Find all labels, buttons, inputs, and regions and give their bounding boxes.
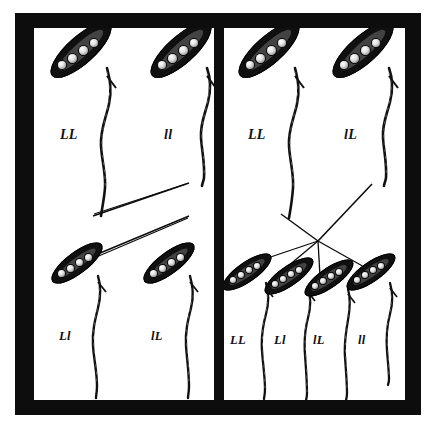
genotype-label-offspring-3: lL: [313, 334, 325, 347]
genotype-label-offspring-1: Ll: [59, 330, 71, 343]
plant-stem: [176, 274, 202, 398]
genotype-label-parent-1: LL: [60, 128, 78, 142]
pea-seed: [68, 54, 77, 63]
pea-seed: [328, 273, 334, 279]
pea-seed: [168, 54, 177, 63]
pea-seed: [272, 281, 278, 287]
pea-seed: [159, 265, 166, 272]
panel-heterozygous-cross: LL lL: [224, 28, 405, 400]
pea-seed: [296, 267, 302, 273]
plant-stem: [190, 66, 214, 186]
panel-monohybrid-cross: LL ll: [34, 28, 214, 400]
pea-seed: [246, 267, 252, 273]
pea-seed: [362, 272, 368, 278]
pea-seed: [254, 263, 260, 269]
genotype-label-offspring-4: ll: [358, 334, 366, 347]
plant-stem: [278, 66, 308, 218]
genotype-label-offspring-2: lL: [151, 330, 163, 343]
pea-seed: [256, 54, 265, 63]
genotype-label-parent-2: ll: [164, 128, 172, 142]
pea-seed: [354, 277, 360, 283]
pea-seed: [378, 263, 384, 269]
plant-stem: [372, 66, 402, 186]
pea-seed: [58, 270, 65, 277]
pea-seed: [230, 277, 236, 283]
pea-seed: [150, 270, 157, 277]
plant-stem: [90, 66, 120, 216]
pea-seed: [67, 265, 74, 272]
genotype-label-parent-1: LL: [248, 128, 266, 142]
pea-seed: [340, 61, 348, 69]
pea-seed: [179, 46, 188, 55]
genotype-label-offspring-1: LL: [230, 334, 246, 347]
plant-stem: [335, 287, 359, 400]
pea-seed: [85, 254, 92, 261]
pea-seed: [280, 276, 286, 282]
pea-seed: [361, 46, 370, 55]
pea-seed: [267, 46, 276, 55]
genotype-label-parent-2: lL: [344, 128, 357, 142]
pea-seed: [246, 61, 254, 69]
pea-seed: [90, 39, 98, 47]
pea-seed: [320, 278, 326, 284]
pea-seed: [336, 269, 342, 275]
pea-seed: [76, 259, 83, 266]
pea-seed: [158, 61, 166, 69]
pea-seed: [288, 271, 294, 277]
pea-seed: [312, 283, 318, 289]
genotype-label-offspring-2: Ll: [274, 334, 286, 347]
pea-seed: [350, 54, 359, 63]
pea-seed: [79, 46, 88, 55]
pea-seed: [168, 259, 175, 266]
genetics-cross-figure: LL ll: [0, 0, 436, 433]
pea-seed: [278, 39, 286, 47]
pea-seed: [190, 39, 198, 47]
pea-seed: [238, 272, 244, 278]
pea-seed: [370, 267, 376, 273]
plant-stem: [84, 274, 110, 398]
pea-seed: [177, 254, 184, 261]
pea-seed: [58, 61, 66, 69]
plant-stem: [377, 281, 401, 385]
pea-seed: [372, 39, 380, 47]
